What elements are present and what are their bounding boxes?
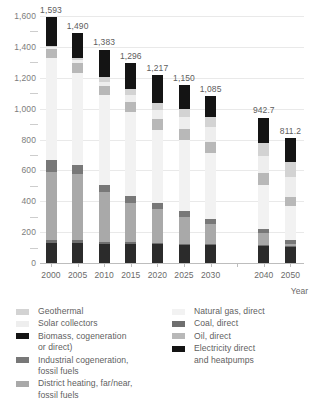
y-axis-tick-label: 200 [22, 227, 36, 237]
legend-item-biomass[interactable]: Biomass, cogenerationor direct) [16, 331, 166, 354]
bar-segment [72, 243, 83, 263]
bar-segment [179, 117, 190, 129]
plot-area: 02004006008001,0001,2001,4001,6001,5931,… [40, 16, 304, 263]
bar-segment [99, 86, 110, 95]
bar-segment [205, 96, 216, 118]
bar-value-label: 811.2 [274, 126, 306, 136]
legend-item-natural-gas-direct[interactable]: Natural gas, direct [172, 306, 312, 317]
legend-swatch-icon [172, 309, 185, 315]
legend-item-coal-direct[interactable]: Coal, direct [172, 318, 312, 329]
bar-segment [125, 63, 136, 89]
bar-segment [152, 130, 163, 203]
legend-label: Geothermal [38, 306, 166, 317]
bar-segment [46, 49, 57, 59]
y-axis-tick-label: 0 [31, 258, 36, 268]
bar-2025[interactable] [179, 85, 190, 263]
y-axis-minor-tick [30, 217, 38, 218]
bar-segment [72, 63, 83, 73]
y-axis-tick-label: 800 [22, 135, 36, 145]
bar-segment [285, 138, 296, 162]
bar-2015[interactable] [125, 63, 136, 263]
bar-2040[interactable] [258, 117, 269, 263]
bar-segment [205, 219, 216, 224]
x-axis-tick [157, 263, 158, 267]
bar-value-label: 1,383 [88, 37, 120, 47]
bar-segment [258, 245, 269, 246]
bar-segment [258, 173, 269, 185]
bar-2000[interactable] [46, 17, 57, 263]
bar-segment [99, 244, 110, 263]
bar-segment [152, 209, 163, 242]
bar-segment [152, 110, 163, 119]
legend-label: fossil fuels [38, 390, 166, 401]
legend-item-oil-direct[interactable]: Oil, direct [172, 331, 312, 342]
bar-value-label: 1,593 [35, 5, 67, 15]
bar-segment [125, 244, 136, 263]
x-axis-label-2030: 2030 [201, 270, 220, 280]
x-axis-label-2000: 2000 [41, 270, 60, 280]
x-axis-tick [237, 263, 238, 267]
y-axis-tick-label: 1,000 [14, 104, 36, 114]
y-axis-tick-label: 400 [22, 196, 36, 206]
bar-segment [152, 75, 163, 103]
bar-segment [258, 229, 269, 233]
bar-segment [179, 129, 190, 140]
bar-value-label: 1,150 [168, 73, 200, 83]
bar-segment [72, 58, 83, 60]
bar-2020[interactable] [152, 75, 163, 263]
bar-segment [285, 177, 296, 197]
bar-segment [72, 33, 83, 58]
bar-2030[interactable] [205, 96, 216, 263]
bar-segment [258, 118, 269, 143]
x-axis-tick [104, 263, 105, 267]
y-axis-tick-label: 600 [22, 165, 36, 175]
legend: GeothermalSolar collectorsBiomass, cogen… [0, 306, 316, 411]
bar-segment [258, 246, 269, 263]
bar-segment [125, 203, 136, 242]
y-axis-minor-tick [30, 155, 38, 156]
y-axis-minor-tick [30, 62, 38, 63]
bar-segment [99, 242, 110, 244]
bar-segment [285, 247, 296, 263]
legend-label: fossil fuels [38, 366, 166, 377]
legend-item-industrial-cogeneration[interactable]: Industrial cogeneration,fossil fuels [16, 355, 166, 378]
bar-segment [152, 243, 163, 244]
bar-2010[interactable] [99, 50, 110, 264]
x-axis-label-2010: 2010 [95, 270, 114, 280]
bar-segment [179, 85, 190, 108]
bar-segment [72, 73, 83, 166]
x-axis-label-2040: 2040 [254, 270, 273, 280]
legend-item-electricity-direct-heatpumps[interactable]: Electricity directand heatpumps [172, 343, 312, 366]
bar-2005[interactable] [72, 33, 83, 263]
bar-segment [205, 142, 216, 153]
y-axis-minor-tick [30, 186, 38, 187]
bar-segment [46, 243, 57, 263]
legend-item-district-heating[interactable]: District heating, far/near,fossil fuels [16, 378, 166, 401]
bar-value-label: 1,217 [141, 63, 173, 73]
bar-value-label: 1,085 [195, 84, 227, 94]
bar-segment [125, 196, 136, 203]
bar-value-label: 942.7 [248, 105, 280, 115]
x-axis-tick [290, 263, 291, 267]
legend-swatch-icon [16, 333, 29, 339]
bar-segment [205, 153, 216, 219]
bar-segment [205, 244, 216, 245]
legend-swatch-icon [16, 309, 29, 315]
legend-item-geothermal[interactable]: Geothermal [16, 306, 166, 317]
bar-value-label: 1,490 [62, 21, 94, 31]
y-axis-minor-tick [30, 124, 38, 125]
legend-swatch-icon [16, 357, 29, 363]
y-axis-tick-label: 1,600 [14, 11, 36, 21]
bar-segment [152, 119, 163, 130]
bar-segment [46, 17, 57, 46]
x-axis-tick [264, 263, 265, 267]
bar-2050[interactable] [285, 138, 296, 263]
bar-segment [152, 203, 163, 210]
x-axis-label-2005: 2005 [68, 270, 87, 280]
bar-segment [179, 217, 190, 244]
legend-swatch-icon [172, 333, 185, 339]
legend-label: Biomass, cogeneration [38, 331, 166, 342]
bar-segment [285, 197, 296, 206]
legend-item-solar-collectors[interactable]: Solar collectors [16, 318, 166, 329]
gridline [40, 16, 304, 17]
